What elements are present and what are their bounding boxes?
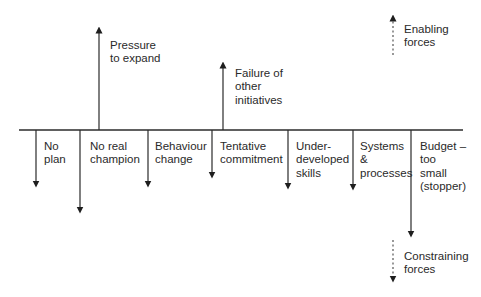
label-skills: Under- developed skills bbox=[296, 140, 349, 180]
label-behaviour: Behaviour change bbox=[155, 140, 207, 167]
legend-constraining-label: Constraining forces bbox=[404, 250, 469, 277]
label-budget: Budget – too small (stopper) bbox=[420, 140, 466, 193]
label-no-champion: No real champion bbox=[90, 140, 140, 167]
label-failure: Failure of other initiatives bbox=[235, 67, 283, 107]
legend-enabling-label: Enabling forces bbox=[404, 23, 449, 50]
label-systems: Systems & processes bbox=[360, 140, 412, 180]
label-tentative: Tentative commitment bbox=[220, 140, 283, 167]
label-no-plan: No plan bbox=[44, 140, 66, 167]
label-pressure: Pressure to expand bbox=[110, 39, 161, 66]
